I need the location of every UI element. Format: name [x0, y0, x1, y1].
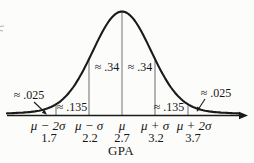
x-axis-label: GPA — [108, 144, 134, 157]
x-tick-value-2-2: 2.2 — [82, 132, 98, 145]
normal-curve-figure: ≈ .025 ≈ .135 ≈ .34 ≈ .34 ≈ .135 ≈ .025 … — [0, 0, 254, 163]
area-label-left-outer-band: ≈ .135 — [57, 101, 88, 114]
area-label-right-tail: ≈ .025 — [201, 87, 232, 100]
x-axis-arrowhead-icon — [239, 112, 248, 119]
area-label-right-inner-band: ≈ .34 — [128, 61, 153, 74]
x-tick-value-3-2: 3.2 — [148, 132, 164, 145]
area-label-left-inner-band: ≈ .34 — [95, 61, 120, 74]
x-tick-value-1-7: 1.7 — [41, 132, 57, 145]
right-tail-pointer-line — [199, 99, 206, 109]
x-tick-value-3-7: 3.7 — [185, 132, 201, 145]
left-edge-artifact — [0, 26, 4, 31]
area-label-right-outer-band: ≈ .135 — [154, 101, 185, 114]
area-label-left-tail: ≈ .025 — [14, 89, 45, 102]
